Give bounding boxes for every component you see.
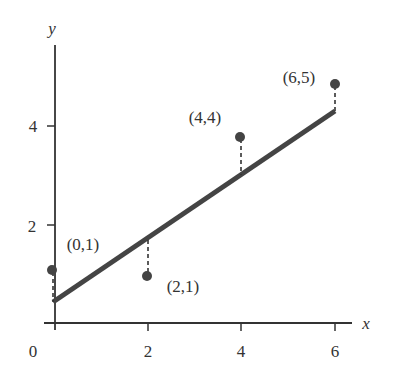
point-label-2-1: (2,1) [167,277,200,296]
data-point-6-5 [330,79,340,89]
scatter-plot: y x 4 2 0 2 4 6 (0,1) (2,1) (4,4) (6,5) [0,0,393,384]
x-axis-label: x [361,314,370,333]
data-point-0-1 [47,265,57,275]
x-tick-label-2: 2 [144,342,153,361]
y-axis-label: y [46,19,56,38]
y-tick-label-4: 4 [29,117,38,136]
point-label-4-4: (4,4) [189,108,222,127]
y-tick-label-2: 2 [28,217,37,236]
regression-line [53,111,335,302]
x-tick-label-6: 6 [331,342,340,361]
point-label-0-1: (0,1) [67,235,100,254]
x-tick-label-4: 4 [237,342,246,361]
point-label-6-5: (6,5) [283,68,316,87]
x-tick-label-0: 0 [29,342,38,361]
data-point-2-1 [142,271,152,281]
data-point-4-4 [235,132,245,142]
